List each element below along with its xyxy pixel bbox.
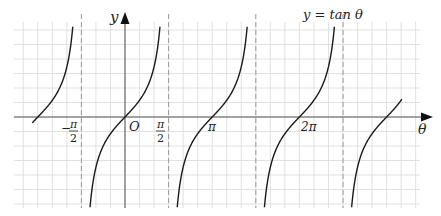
y-axis-arrow-icon [121, 12, 130, 24]
origin-label: O [129, 119, 140, 134]
tan-chart: y θ y = tan θ O − π 2 π 2 π 2π [0, 0, 441, 216]
svg-text:2: 2 [70, 132, 77, 145]
svg-text:π: π [156, 118, 165, 131]
axes [14, 12, 433, 208]
tick-neg-half-pi: − π 2 [61, 118, 78, 145]
chart-title: y = tan θ [302, 7, 363, 22]
tick-half-pi: π 2 [156, 118, 165, 145]
svg-text:2: 2 [157, 132, 164, 145]
tan-branch [352, 99, 402, 207]
svg-text:π: π [69, 118, 78, 131]
tick-pi: π [207, 120, 217, 134]
tick-two-pi: 2π [300, 120, 318, 134]
y-axis-label: y [109, 8, 119, 26]
grid-lines [14, 22, 420, 208]
x-axis-label: θ [418, 121, 427, 137]
chart-canvas: y θ y = tan θ O − π 2 π 2 π 2π [0, 0, 441, 216]
